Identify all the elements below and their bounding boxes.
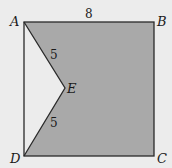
length-AE: 5 (50, 48, 58, 62)
label-B: B (156, 14, 167, 29)
label-A: A (9, 14, 19, 29)
geometry-diagram: A B C D E 8 5 5 (0, 0, 172, 168)
label-D: D (9, 151, 21, 166)
length-ED: 5 (50, 116, 58, 130)
shaded-region-ABCDE (24, 22, 154, 156)
label-E: E (66, 81, 77, 96)
length-AB: 8 (85, 7, 93, 21)
label-C: C (157, 151, 167, 166)
